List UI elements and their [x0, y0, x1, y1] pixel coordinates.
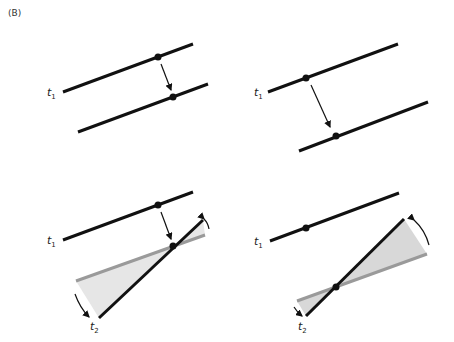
panel-top-left	[63, 44, 208, 132]
label-t1: t1	[254, 86, 263, 101]
diagram-svg	[0, 0, 454, 342]
panel-top-right	[268, 44, 428, 151]
label-t1: t1	[47, 86, 56, 101]
label-t2: t2	[298, 320, 307, 335]
label-t1: t1	[47, 234, 56, 249]
label-t2: t2	[90, 320, 99, 335]
panel-bottom-left	[63, 192, 209, 318]
panel-bottom-right	[270, 193, 429, 316]
diagram: (B) t1 t1 t1 t1 t2 t2	[0, 0, 454, 342]
label-t1: t1	[254, 235, 263, 250]
